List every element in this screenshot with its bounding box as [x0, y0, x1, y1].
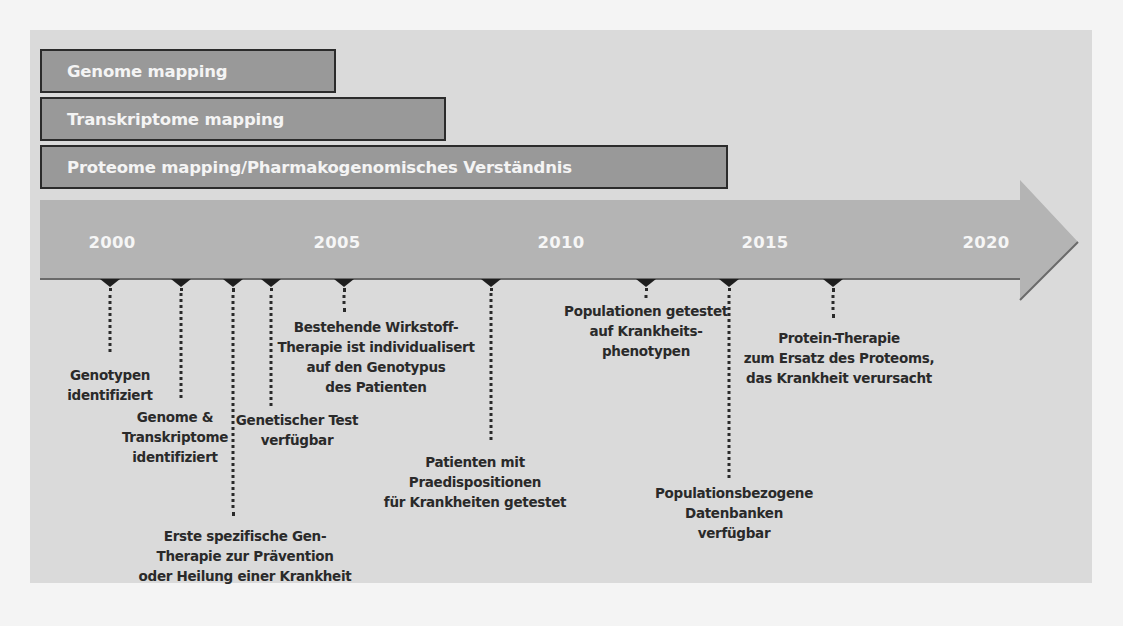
mapping-bar: Transkriptome mapping	[40, 97, 446, 141]
event-marker-icon	[334, 279, 354, 287]
event-marker-icon	[719, 279, 739, 287]
event-label: Patienten mitPraedispositionenfür Krankh…	[384, 452, 566, 512]
event-label-line: Genome &	[122, 407, 228, 427]
year-label: 2015	[741, 233, 788, 252]
year-label: 2020	[962, 233, 1009, 252]
event-connector	[270, 288, 273, 406]
event-connector	[109, 288, 112, 352]
event-label: Populationen getestetauf Krankheits-phen…	[564, 301, 728, 361]
event-marker-icon	[823, 279, 843, 287]
event-label-line: Transkriptome	[122, 427, 228, 447]
mapping-bar: Genome mapping	[40, 49, 336, 93]
event-label-line: phenotypen	[564, 341, 728, 361]
event-label-line: Populationen getestet	[564, 301, 728, 321]
event-label-line: des Patienten	[277, 377, 474, 397]
event-marker-icon	[636, 279, 656, 287]
mapping-bar-label: Proteome mapping/Pharmakogenomisches Ver…	[67, 158, 572, 177]
event-connector	[180, 288, 183, 398]
event-label-line: Patienten mit	[384, 452, 566, 472]
event-label: Genotypenidentifiziert	[67, 365, 153, 405]
event-label-line: verfügbar	[655, 523, 813, 543]
event-label: Bestehende Wirkstoff-Therapie ist indivi…	[277, 317, 474, 397]
event-marker-icon	[261, 279, 281, 287]
event-label-line: Protein-Therapie	[744, 328, 935, 348]
mapping-bar-label: Genome mapping	[67, 62, 227, 81]
event-label-line: identifiziert	[67, 385, 153, 405]
event-marker-icon	[223, 279, 243, 287]
event-label-line: Populationsbezogene	[655, 483, 813, 503]
year-label: 2005	[313, 233, 360, 252]
event-label-line: Therapie ist individualisert	[277, 337, 474, 357]
event-label-line: für Krankheiten getestet	[384, 492, 566, 512]
mapping-bar: Proteome mapping/Pharmakogenomisches Ver…	[40, 145, 728, 189]
year-label: 2010	[537, 233, 584, 252]
event-connector	[490, 288, 493, 440]
event-label-line: Bestehende Wirkstoff-	[277, 317, 474, 337]
event-label-line: Genetischer Test	[236, 410, 359, 430]
event-connector	[343, 288, 346, 312]
event-label-line: zum Ersatz des Proteoms,	[744, 348, 935, 368]
event-marker-icon	[481, 279, 501, 287]
event-marker-icon	[100, 279, 120, 287]
event-label: Genetischer Testverfügbar	[236, 410, 359, 450]
event-connector	[832, 288, 835, 318]
year-label: 2000	[88, 233, 135, 252]
event-connector	[645, 288, 648, 298]
event-label-line: Therapie zur Prävention	[139, 546, 352, 566]
event-label-line: oder Heilung einer Krankheit	[139, 566, 352, 586]
event-label: PopulationsbezogeneDatenbankenverfügbar	[655, 483, 813, 543]
event-label-line: das Krankheit verursacht	[744, 368, 935, 388]
event-label-line: auf den Genotypus	[277, 357, 474, 377]
event-label-line: Datenbanken	[655, 503, 813, 523]
event-label-line: auf Krankheits-	[564, 321, 728, 341]
event-label-line: identifiziert	[122, 447, 228, 467]
event-connector	[232, 288, 235, 516]
event-marker-icon	[171, 279, 191, 287]
event-label: Genome &Transkriptomeidentifiziert	[122, 407, 228, 467]
event-label: Protein-Therapiezum Ersatz des Proteoms,…	[744, 328, 935, 388]
event-label-line: Genotypen	[67, 365, 153, 385]
event-label: Erste spezifische Gen-Therapie zur Präve…	[139, 526, 352, 586]
event-connector	[728, 288, 731, 478]
mapping-bar-label: Transkriptome mapping	[67, 110, 284, 129]
event-label-line: verfügbar	[236, 430, 359, 450]
event-label-line: Erste spezifische Gen-	[139, 526, 352, 546]
event-label-line: Praedispositionen	[384, 472, 566, 492]
